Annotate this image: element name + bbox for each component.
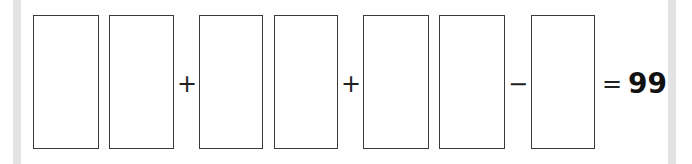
equals-sign: = [602, 72, 622, 96]
minus-operator: − [508, 72, 528, 96]
digit-box-2[interactable] [109, 15, 174, 149]
left-border [13, 0, 21, 164]
digit-box-3[interactable] [199, 15, 263, 149]
plus-operator-1: + [177, 72, 197, 96]
digit-box-1[interactable] [33, 15, 99, 149]
plus-operator-2: + [341, 72, 361, 96]
digit-box-7[interactable] [531, 15, 595, 149]
right-border [668, 0, 676, 164]
digit-box-5[interactable] [363, 15, 429, 149]
digit-box-6[interactable] [439, 15, 505, 149]
digit-box-4[interactable] [274, 15, 338, 149]
result-value: 99 [628, 70, 667, 98]
